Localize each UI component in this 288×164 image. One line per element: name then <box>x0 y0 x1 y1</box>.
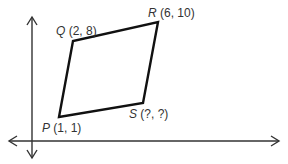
point-s-name: S <box>129 107 137 121</box>
point-s-coords: (?, ?) <box>140 107 168 121</box>
point-r-name: R <box>148 6 157 20</box>
point-p-coords: (1, 1) <box>53 121 81 135</box>
point-p-name: P <box>42 121 50 135</box>
label-p: P (1, 1) <box>42 121 81 135</box>
label-s: S (?, ?) <box>129 107 168 121</box>
x-axis <box>9 136 279 146</box>
point-q-name: Q <box>56 24 65 38</box>
y-axis <box>27 17 37 158</box>
point-r-coords: (6, 10) <box>160 6 195 20</box>
label-q: Q (2, 8) <box>56 24 97 38</box>
point-q-coords: (2, 8) <box>69 24 97 38</box>
label-r: R (6, 10) <box>148 6 195 20</box>
coordinate-plane <box>0 0 288 164</box>
